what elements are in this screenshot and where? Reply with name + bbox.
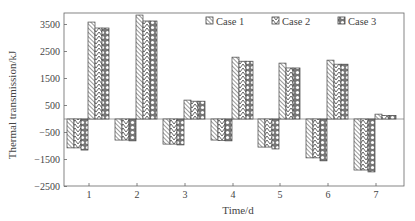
y-tick-label: −2500 xyxy=(34,181,60,192)
y-tick-label: 2500 xyxy=(40,46,60,57)
bar-loss-case-1 xyxy=(163,119,170,144)
bar-gain-case-3 xyxy=(246,61,253,119)
legend-label-3: Case 3 xyxy=(348,16,376,27)
bar-gain-case-1 xyxy=(136,15,143,119)
bar-loss-case-1 xyxy=(258,119,265,147)
y-tick-label: 3500 xyxy=(40,19,60,30)
bar-loss-case-2 xyxy=(361,119,368,170)
bar-gain-case-2 xyxy=(143,21,150,119)
bar-loss-case-2 xyxy=(170,119,177,144)
bar-loss-case-3 xyxy=(368,119,375,172)
y-tick-label: −500 xyxy=(39,127,60,138)
bar-gain-case-3 xyxy=(102,28,109,119)
x-tick-label: 5 xyxy=(278,189,283,200)
bar-gain-case-1 xyxy=(88,22,95,119)
bar-gain-case-3 xyxy=(389,115,396,119)
bar-loss-case-1 xyxy=(354,119,361,170)
bar-loss-case-3 xyxy=(225,119,232,141)
bar-loss-case-1 xyxy=(211,119,218,140)
bar-loss-case-1 xyxy=(67,119,74,148)
bar-loss-case-3 xyxy=(320,119,327,161)
legend-swatch-1 xyxy=(206,17,213,24)
bar-loss-case-1 xyxy=(306,119,313,158)
legend-label-2: Case 2 xyxy=(282,16,310,27)
legend-swatch-3 xyxy=(338,17,345,24)
bar-gain-case-1 xyxy=(375,114,382,119)
y-axis-label: Thermal transmission/kJ xyxy=(6,50,18,159)
x-tick-label: 2 xyxy=(135,189,140,200)
legend-swatch-2 xyxy=(272,17,279,24)
bar-gain-case-1 xyxy=(327,60,334,119)
bar-gain-case-2 xyxy=(334,64,341,119)
bar-gain-case-2 xyxy=(95,28,102,119)
x-tick-label: 6 xyxy=(326,189,331,200)
bar-loss-case-2 xyxy=(74,119,81,148)
x-tick-label: 1 xyxy=(87,189,92,200)
bar-loss-case-1 xyxy=(115,119,122,140)
bar-loss-case-2 xyxy=(265,119,272,147)
bar-gain-case-1 xyxy=(184,100,191,119)
x-tick-label: 7 xyxy=(374,189,379,200)
bar-loss-case-2 xyxy=(122,119,129,140)
legend: Case 1Case 2Case 3 xyxy=(206,16,376,27)
y-tick-label: 1500 xyxy=(40,73,60,84)
bar-loss-case-3 xyxy=(177,119,184,145)
bar-gain-case-1 xyxy=(279,63,286,119)
legend-label-1: Case 1 xyxy=(216,16,244,27)
bar-gain-case-2 xyxy=(239,61,246,119)
bar-gain-case-3 xyxy=(150,21,157,119)
bar-loss-case-3 xyxy=(272,119,279,149)
bar-gain-case-3 xyxy=(198,101,205,119)
bar-gain-case-2 xyxy=(382,115,389,119)
bar-loss-case-2 xyxy=(313,119,320,158)
bar-loss-case-3 xyxy=(129,119,136,141)
y-tick-label: −1500 xyxy=(34,154,60,165)
bar-loss-case-3 xyxy=(81,119,88,150)
x-axis-label: Time/d xyxy=(222,204,254,216)
bar-gain-case-1 xyxy=(232,57,239,119)
y-tick-label: 500 xyxy=(45,100,60,111)
bar-gain-case-2 xyxy=(286,68,293,119)
bar-gain-case-3 xyxy=(341,64,348,119)
thermal-transmission-chart: 350025001500500−500−1500−25001234567 Cas… xyxy=(0,0,415,221)
bar-gain-case-3 xyxy=(293,68,300,119)
plot-area: 350025001500500−500−1500−25001234567 xyxy=(34,13,404,200)
bar-loss-case-2 xyxy=(218,119,225,141)
bar-gain-case-2 xyxy=(191,101,198,119)
x-tick-label: 3 xyxy=(183,189,188,200)
x-tick-label: 4 xyxy=(231,189,236,200)
